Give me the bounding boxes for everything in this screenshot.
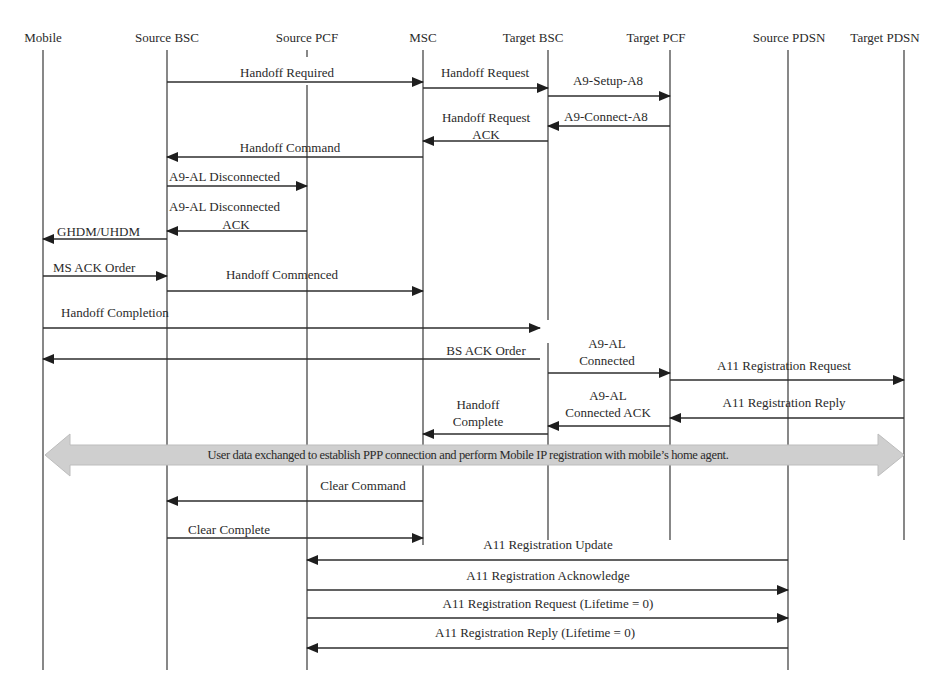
label-a11-registration-reply: A11 Registration Reply: [722, 396, 845, 410]
label-handoff-complete-line2: Complete: [453, 415, 504, 429]
label-a9-setup-a8: A9-Setup-A8: [573, 74, 643, 88]
label-handoff-request: Handoff Request: [441, 66, 529, 80]
label-handoff-commenced: Handoff Commenced: [226, 268, 338, 282]
label-handoff-required: Handoff Required: [240, 66, 334, 80]
label-a9-al-disconnected-ack-line2: ACK: [222, 218, 249, 232]
participant-source-pdsn: Source PDSN: [753, 30, 826, 46]
label-clear-complete: Clear Complete: [188, 523, 270, 537]
label-a9-connect-a8: A9-Connect-A8: [564, 110, 648, 124]
label-handoff-request-ack-line2: ACK: [472, 128, 499, 142]
label-ms-ack-order: MS ACK Order: [53, 261, 135, 275]
participant-msc: MSC: [409, 30, 436, 46]
label-handoff-command: Handoff Command: [240, 141, 341, 155]
label-a11-registration-update: A11 Registration Update: [483, 538, 613, 552]
label-a11-registration-acknowledge: A11 Registration Acknowledge: [466, 569, 629, 583]
label-handoff-complete-line1: Handoff: [456, 398, 499, 412]
label-a9-al-disconnected-ack-line1: A9-AL Disconnected: [169, 200, 280, 214]
label-a11-registration-request: A11 Registration Request: [717, 359, 851, 373]
participant-source-pcf: Source PCF: [276, 30, 338, 46]
label-handoff-completion: Handoff Completion: [61, 306, 169, 320]
label-user-data-band: User data exchanged to establish PPP con…: [208, 448, 729, 462]
label-a9-al-connected-line1: A9-AL: [588, 337, 626, 351]
label-a9-al-connected-ack-line2: Connected ACK: [565, 406, 651, 420]
label-a9-al-disconnected: A9-AL Disconnected: [169, 170, 280, 184]
label-ghdm-uhdm: GHDM/UHDM: [57, 225, 140, 239]
participant-target-pdsn: Target PDSN: [850, 30, 919, 46]
label-a11-registration-reply-lifetime-0: A11 Registration Reply (Lifetime = 0): [435, 626, 635, 640]
participant-target-pcf: Target PCF: [626, 30, 685, 46]
participant-mobile: Mobile: [24, 30, 62, 46]
label-a11-registration-request-lifetime-0: A11 Registration Request (Lifetime = 0): [443, 597, 654, 611]
label-clear-command: Clear Command: [320, 479, 406, 493]
participant-source-bsc: Source BSC: [135, 30, 199, 46]
label-a9-al-connected-line2: Connected: [579, 354, 635, 368]
label-handoff-request-ack-line1: Handoff Request: [442, 111, 530, 125]
label-a9-al-connected-ack-line1: A9-AL: [589, 389, 627, 403]
participant-target-bsc: Target BSC: [503, 30, 564, 46]
label-bs-ack-order: BS ACK Order: [446, 344, 525, 358]
